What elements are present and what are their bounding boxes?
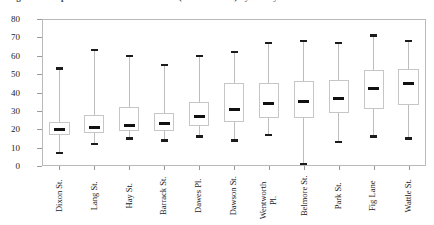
max-whisker-cap <box>300 40 307 43</box>
min-whisker-cap <box>370 135 377 138</box>
min-whisker-cap <box>231 139 238 142</box>
median-marker <box>368 87 379 90</box>
y-tick-label: 40 <box>11 88 20 97</box>
x-tick-label-text: Dawes Pl. <box>194 179 204 213</box>
x-tick-label-text: Wattle St. <box>404 179 414 212</box>
y-tick-label: 30 <box>11 106 20 115</box>
median-marker <box>298 100 309 103</box>
x-tick-label-text: Lang St. <box>90 181 100 210</box>
max-whisker-cap <box>265 42 272 45</box>
median-marker <box>194 115 205 118</box>
iqr-box <box>224 83 244 122</box>
y-tick-label: 80 <box>11 15 20 24</box>
max-whisker-cap <box>370 34 377 37</box>
median-marker <box>263 102 274 105</box>
x-tick-mark <box>59 166 60 170</box>
x-tick-mark <box>269 166 270 170</box>
min-whisker-cap <box>405 137 412 140</box>
x-tick-mark <box>409 166 410 170</box>
x-tick-mark <box>374 166 375 170</box>
min-whisker-cap <box>161 139 168 142</box>
max-whisker-cap <box>91 49 98 52</box>
max-whisker-cap <box>126 55 133 58</box>
y-tick-label: 10 <box>11 143 20 152</box>
x-tick-label-text: Dixon St. <box>55 179 65 212</box>
min-whisker-cap <box>335 141 342 144</box>
x-tick-label: Wattle St. <box>381 170 434 222</box>
y-tick-label: 20 <box>11 125 20 134</box>
y-tick-label: 50 <box>11 70 20 79</box>
x-tick-mark <box>234 166 235 170</box>
x-tick-mark <box>304 166 305 170</box>
max-whisker-cap <box>231 51 238 54</box>
y-tick-label: 60 <box>11 51 20 60</box>
x-tick-mark <box>164 166 165 170</box>
max-whisker-cap <box>56 67 63 70</box>
median-marker <box>229 108 240 111</box>
max-whisker-cap <box>405 40 412 43</box>
iqr-box <box>84 115 104 133</box>
median-marker <box>54 128 65 131</box>
min-whisker-cap <box>56 152 63 155</box>
iqr-box <box>189 102 209 126</box>
x-tick-label-text: Fig Lane <box>369 181 379 211</box>
boxplot-figure: Figure 5. Boxplots of diurnal traffic co… <box>0 0 434 225</box>
median-marker <box>89 126 100 129</box>
y-tick-mark <box>37 166 42 167</box>
x-tick-mark <box>339 166 340 170</box>
x-tick-label-text: Hay St. <box>125 183 135 209</box>
median-marker <box>333 97 344 100</box>
median-marker <box>124 124 135 127</box>
x-tick-label-text: Dawson St. <box>229 176 239 215</box>
figure-caption-strip: Figure 5. Boxplots of diurnal traffic co… <box>0 0 434 9</box>
median-marker <box>403 82 414 85</box>
x-axis: Dixon St.Lang St.Hay St.Barrack St.Dawes… <box>0 170 434 225</box>
x-tick-mark <box>199 166 200 170</box>
y-tick-label: 70 <box>11 33 20 42</box>
min-whisker-cap <box>196 135 203 138</box>
max-whisker-cap <box>196 55 203 58</box>
x-tick-label-text: Park St. <box>334 182 344 209</box>
x-tick-mark <box>129 166 130 170</box>
x-tick-label-text: Barrack St. <box>159 177 169 215</box>
iqr-box <box>259 83 279 118</box>
min-whisker-cap <box>265 134 272 137</box>
whisker-line <box>59 69 60 154</box>
max-whisker-cap <box>335 42 342 45</box>
x-tick-mark <box>94 166 95 170</box>
median-marker <box>159 122 170 125</box>
x-tick-label-text: Belmore St. <box>299 175 309 216</box>
figure-caption: Figure 5. Boxplots of diurnal traffic co… <box>8 0 311 2</box>
min-whisker-cap <box>91 143 98 146</box>
max-whisker-cap <box>161 64 168 67</box>
iqr-box <box>398 69 418 106</box>
min-whisker-cap <box>126 137 133 140</box>
iqr-box <box>119 107 139 131</box>
